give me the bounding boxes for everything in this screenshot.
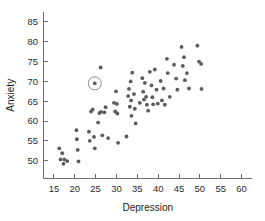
data-point [88, 139, 92, 143]
data-point [138, 101, 142, 105]
y-axis: 5055606570758085 [27, 12, 48, 179]
x-tick-label-50: 50 [195, 183, 206, 194]
data-point [130, 114, 134, 118]
y-tick-label-65: 65 [27, 96, 38, 107]
data-point [181, 64, 185, 68]
data-point [168, 95, 172, 99]
chart-canvas: 5055606570758085 15202530354045505560 De… [0, 0, 265, 221]
data-point [100, 133, 104, 137]
y-axis-title: Anxiety [5, 79, 16, 112]
data-point [134, 121, 138, 125]
data-point [183, 78, 187, 82]
data-point [102, 110, 106, 114]
data-point [145, 103, 149, 107]
y-tick-label-60: 60 [27, 115, 38, 126]
data-point [104, 105, 108, 109]
data-point [180, 45, 184, 49]
data-point [163, 103, 167, 107]
data-point [125, 135, 129, 139]
data-point [99, 110, 103, 114]
x-axis-ticks [54, 174, 242, 179]
data-point [165, 57, 169, 61]
data-point [115, 102, 119, 106]
data-point [140, 76, 144, 80]
data-point [130, 71, 134, 75]
data-point [148, 70, 152, 74]
data-point [115, 112, 119, 116]
x-tick-label-20: 20 [69, 183, 80, 194]
x-tick-label-15: 15 [49, 183, 60, 194]
data-point [162, 87, 166, 91]
data-point [133, 107, 137, 111]
data-point [92, 135, 96, 139]
data-point [143, 81, 147, 85]
y-tick-label-80: 80 [27, 36, 38, 47]
data-point [93, 81, 97, 85]
data-point [77, 160, 81, 164]
data-point [99, 66, 103, 70]
y-axis-tick-labels: 5055606570758085 [27, 16, 38, 166]
data-point [159, 79, 163, 83]
data-point [175, 88, 179, 92]
data-point [182, 55, 186, 59]
data-point [150, 95, 154, 99]
data-point [174, 77, 178, 81]
x-tick-label-30: 30 [111, 183, 122, 194]
data-point [57, 146, 61, 150]
scatter-plot-figure: 5055606570758085 15202530354045505560 De… [0, 0, 265, 221]
data-point [185, 71, 189, 75]
x-axis-tick-labels: 15202530354045505560 [49, 183, 247, 194]
data-point [199, 62, 203, 66]
data-point [126, 94, 130, 98]
data-point [128, 105, 132, 109]
data-points-layer [57, 44, 203, 166]
y-tick-label-85: 85 [27, 16, 38, 27]
data-point [60, 151, 64, 155]
data-point [141, 90, 145, 94]
x-tick-label-25: 25 [90, 183, 101, 194]
data-point [153, 68, 157, 72]
x-axis: 15202530354045505560 [44, 174, 253, 194]
data-point [59, 158, 63, 162]
data-point [116, 141, 120, 145]
data-point [146, 109, 150, 113]
data-point [144, 95, 148, 99]
data-point [172, 63, 176, 67]
y-axis-ticks [44, 22, 49, 161]
y-tick-label-50: 50 [27, 155, 38, 166]
x-tick-label-45: 45 [174, 183, 185, 194]
data-point [160, 99, 164, 103]
x-tick-label-35: 35 [132, 183, 143, 194]
data-point [129, 79, 133, 83]
x-tick-label-55: 55 [215, 183, 226, 194]
data-point [127, 87, 131, 91]
data-point [166, 71, 170, 75]
x-tick-label-60: 60 [236, 183, 247, 194]
data-point [195, 44, 199, 48]
data-point [106, 136, 110, 140]
data-point [75, 128, 79, 132]
data-point [156, 102, 160, 106]
data-point [96, 121, 100, 125]
data-point [150, 83, 154, 87]
data-point [114, 89, 118, 93]
data-point [93, 146, 97, 150]
data-point [62, 162, 66, 166]
data-point [65, 159, 69, 163]
x-tick-label-40: 40 [153, 183, 164, 194]
x-axis-title: Depression [122, 202, 173, 213]
data-point [91, 108, 95, 112]
data-point [87, 130, 91, 134]
y-tick-label-70: 70 [27, 76, 38, 87]
y-tick-label-75: 75 [27, 56, 38, 67]
data-point [76, 148, 80, 152]
data-point [151, 102, 155, 106]
data-point [187, 87, 191, 91]
y-tick-label-55: 55 [27, 135, 38, 146]
data-point [155, 88, 159, 92]
data-point [129, 99, 133, 103]
data-point [75, 137, 79, 141]
data-point [200, 87, 204, 91]
data-point [132, 92, 136, 96]
